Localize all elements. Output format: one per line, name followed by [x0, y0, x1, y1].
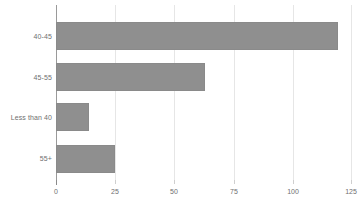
x-tick-label-125: 125: [345, 187, 357, 196]
bars-layer: [56, 5, 352, 180]
x-tick-label-25: 25: [111, 187, 119, 196]
bar-less-than-40[interactable]: [56, 103, 89, 131]
bar-40-45[interactable]: [56, 22, 338, 50]
x-tick-label-100: 100: [287, 187, 299, 196]
x-axis-ticks: 0 25 50 75 100 125: [56, 180, 352, 202]
x-tick-mark-50: [174, 180, 175, 184]
x-tick-label-75: 75: [230, 187, 238, 196]
plot-area: [56, 5, 352, 180]
x-tick-mark-25: [115, 180, 116, 184]
y-axis-label-3: 55+: [40, 154, 52, 163]
x-tick-label-50: 50: [170, 187, 178, 196]
x-tick-mark-100: [293, 180, 294, 184]
x-tick-mark-0: [56, 180, 57, 185]
x-tick-mark-125: [351, 180, 352, 184]
bar-chart: 40-45 45-55 Less than 40 55+ 0 25 50 75 …: [0, 0, 363, 202]
y-axis-label-2: Less than 40: [11, 113, 52, 122]
x-tick-mark-75: [234, 180, 235, 184]
x-tick-label-0: 0: [54, 187, 58, 196]
y-axis-category-labels: 40-45 45-55 Less than 40 55+: [0, 5, 52, 180]
y-axis-label-1: 45-55: [34, 73, 52, 82]
bar-55-plus[interactable]: [56, 145, 115, 173]
y-axis-label-0: 40-45: [34, 32, 52, 41]
bar-45-55[interactable]: [56, 63, 205, 91]
